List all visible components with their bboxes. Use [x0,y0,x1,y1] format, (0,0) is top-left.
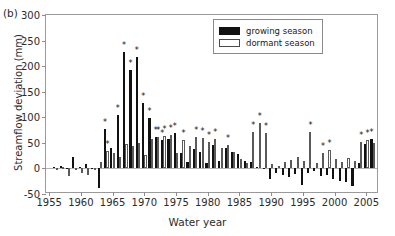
bar-dormant-season-1959 [75,168,77,170]
y-tick [42,117,46,118]
bar-dormant-season-1971 [151,139,153,169]
significance-star-1966: * [116,105,120,113]
significance-star-1964: * [103,119,107,127]
bar-growing-season-1992 [282,168,284,174]
y-tick [42,168,46,169]
x-tick-label: 1995 [290,197,315,208]
x-tick-label: 1955 [36,197,61,208]
bar-dormant-season-1997 [316,163,318,168]
bar-dormant-season-1974 [170,135,172,169]
significance-star-1964: * [105,141,109,149]
bar-dormant-season-2004 [360,142,362,169]
bar-dormant-season-1963 [100,162,102,169]
bar-dormant-season-1992 [284,162,286,168]
x-tick-label: 1990 [258,197,283,208]
x-tick [49,192,50,196]
bar-dormant-season-1964 [106,151,108,169]
significance-star-1987: * [251,122,255,130]
bar-dormant-season-1962 [94,168,96,170]
significance-star-1989: * [264,123,268,131]
significance-star-1988: * [258,113,262,121]
bar-dormant-season-2003 [354,161,356,168]
x-tick-label: 2000 [322,197,347,208]
bar-dormant-season-1977 [189,146,191,169]
bar-dormant-season-1985 [240,159,242,168]
significance-star-1971: * [147,108,151,116]
bar-dormant-season-1968 [132,146,134,169]
significance-star-1968: * [128,60,132,68]
significance-star-1976: * [182,130,186,138]
bar-dormant-season-1982 [221,148,223,168]
x-tick-label: 1985 [227,197,252,208]
x-tick [303,192,304,196]
y-tick [42,15,46,16]
bar-growing-season-2001 [339,168,341,180]
bar-dormant-season-1980 [208,142,210,169]
x-tick [366,192,367,196]
significance-star-1996: * [308,122,312,130]
bar-dormant-season-1990 [271,164,273,168]
significance-star-1981: * [213,129,217,137]
panel-label: (b) [3,7,18,19]
bar-dormant-season-1958 [68,168,70,175]
significance-star-2005: * [366,130,370,138]
x-tick [176,192,177,196]
bar-dormant-season-1988 [259,123,261,168]
significance-star-1983: * [226,135,230,143]
x-tick-label: 1975 [163,197,188,208]
bar-dormant-season-1987 [252,132,254,169]
significance-star-1973: * [163,126,167,134]
bar-dormant-season-1991 [278,166,280,169]
significance-star-1975: * [173,123,177,131]
bar-dormant-season-1976 [182,140,184,168]
bar-growing-season-1999 [326,168,328,174]
y-tick [42,194,46,195]
bar-growing-season-1991 [275,168,277,172]
bar-dormant-season-1984 [233,152,235,168]
bar-dormant-season-1973 [163,136,165,169]
bar-growing-season-1959 [72,157,74,168]
bar-dormant-season-1996 [309,132,311,169]
bar-growing-season-1997 [313,168,315,171]
bar-growing-season-1994 [294,168,296,173]
bar-growing-season-2002 [345,168,347,181]
significance-star-1970: * [141,93,145,101]
plot-area: -50050100150200250300 195519601965197019… [45,14,378,193]
bar-growing-season-1989 [263,168,265,169]
legend-item-growing-season: growing season [219,25,315,36]
significance-star-1998: * [321,143,325,151]
significance-star-1972: * [156,127,160,135]
bar-dormant-season-2001 [341,162,343,168]
significance-star-1974: * [169,125,173,133]
legend-swatch-dormant-season [219,39,240,47]
bar-growing-season-1998 [320,168,322,175]
bar-growing-season-1963 [98,168,100,187]
legend: growing season dormant season [213,19,323,54]
bar-dormant-season-1965 [113,153,115,168]
bar-dormant-season-1967 [125,144,127,169]
bar-dormant-season-1960 [81,168,83,172]
y-tick-label: 100 [21,112,40,123]
significance-star-1980: * [207,132,211,140]
bar-dormant-season-2006 [373,143,375,169]
x-tick-label: 1965 [100,197,125,208]
x-tick [271,192,272,196]
bar-dormant-season-1995 [303,161,305,168]
x-tick-label: 2005 [354,197,379,208]
bar-dormant-season-1957 [62,167,64,169]
significance-star-2004: * [359,132,363,140]
bar-dormant-season-1999 [328,150,330,168]
bar-dormant-season-1966 [119,157,121,168]
x-tick-label: 1970 [132,197,157,208]
bar-growing-season-2003 [351,168,353,185]
bar-dormant-season-1981 [214,139,216,169]
figure-panel-b: (b) Streamflow deviation (mm) Water year… [0,0,395,236]
x-tick-label: 1980 [195,197,220,208]
x-tick [113,192,114,196]
x-tick [144,192,145,196]
significance-star-1978: * [194,127,198,135]
x-tick [239,192,240,196]
y-tick-label: 300 [21,10,40,21]
x-tick-label: 1960 [68,197,93,208]
y-tick-label: 50 [27,137,40,148]
